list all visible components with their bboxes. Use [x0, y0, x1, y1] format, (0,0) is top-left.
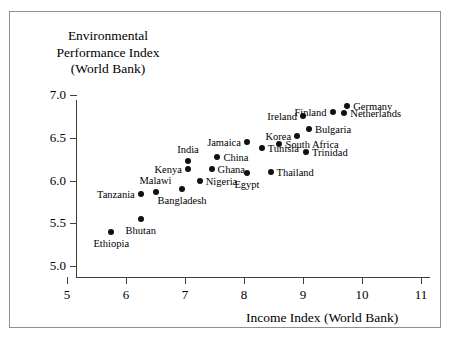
data-point-label: Germany [353, 101, 392, 112]
data-point-label: Bulgaria [315, 124, 351, 135]
y-axis-title-line-1: Environmental [28, 28, 188, 45]
data-point-label: Finland [294, 107, 326, 118]
data-point-label: Tanzania [97, 189, 135, 200]
data-point-label: Jamaica [207, 137, 241, 148]
data-point[interactable] [306, 126, 312, 132]
data-point[interactable] [209, 166, 215, 172]
y-tick-mark [70, 95, 77, 96]
data-point[interactable] [341, 110, 347, 116]
figure-frame: Environmental Performance Index (World B… [9, 11, 441, 328]
data-point[interactable] [138, 216, 144, 222]
y-tick-label: 5.5 [32, 216, 66, 229]
x-tick-mark [421, 277, 422, 284]
data-point-label: China [223, 152, 248, 163]
data-point[interactable] [214, 154, 220, 160]
data-point-label: Nigeria [206, 175, 238, 186]
y-axis-line [76, 100, 77, 278]
y-axis-title-line-3: (World Bank) [28, 61, 188, 78]
data-point[interactable] [259, 145, 265, 151]
data-point[interactable] [244, 139, 250, 145]
data-point[interactable] [153, 189, 159, 195]
y-tick-mark [70, 181, 77, 182]
data-point[interactable] [303, 149, 309, 155]
x-tick-mark [185, 277, 186, 284]
data-point-label: Ghana [218, 163, 245, 174]
x-tick-mark [67, 277, 68, 284]
y-tick-mark [70, 138, 77, 139]
data-point-label: Ireland [267, 110, 297, 121]
data-point-label: Malawi [139, 175, 171, 186]
x-axis-line [76, 277, 430, 278]
y-axis-title-line-2: Performance Index [28, 45, 188, 62]
data-point[interactable] [179, 186, 185, 192]
data-point[interactable] [108, 229, 114, 235]
scatter-plot-figure: Environmental Performance Index (World B… [0, 0, 452, 342]
x-tick-label: 11 [406, 288, 436, 302]
data-point[interactable] [330, 109, 336, 115]
data-point-label: Trinidad [312, 147, 348, 158]
data-point[interactable] [185, 166, 191, 172]
y-tick-label: 6.5 [32, 131, 66, 144]
x-tick-mark [303, 277, 304, 284]
data-point-label: Kenya [155, 164, 182, 175]
data-point-label: Bhutan [126, 225, 156, 236]
data-point-label: India [177, 144, 199, 155]
data-point[interactable] [268, 169, 274, 175]
x-tick-label: 6 [111, 288, 141, 302]
data-point[interactable] [197, 178, 203, 184]
data-point-label: Thailand [277, 166, 314, 177]
x-tick-label: 8 [229, 288, 259, 302]
data-point[interactable] [138, 191, 144, 197]
x-tick-mark [126, 277, 127, 284]
y-tick-label: 5.0 [32, 259, 66, 272]
data-point-label: Egypt [234, 179, 259, 190]
x-tick-mark [244, 277, 245, 284]
data-point[interactable] [244, 170, 250, 176]
x-tick-label: 5 [52, 288, 82, 302]
x-tick-label: 7 [170, 288, 200, 302]
x-tick-mark [362, 277, 363, 284]
data-point-label: Bangladesh [158, 195, 207, 206]
x-axis-title: Income Index (World Bank) [246, 310, 398, 325]
data-point-label: Ethiopia [93, 238, 129, 249]
y-tick-label: 7.0 [32, 88, 66, 101]
data-point-label: Korea [265, 131, 291, 142]
y-axis-title: Environmental Performance Index (World B… [28, 28, 188, 78]
y-tick-label: 6.0 [32, 174, 66, 187]
y-tick-mark [70, 266, 77, 267]
x-tick-label: 10 [347, 288, 377, 302]
data-point[interactable] [185, 158, 191, 164]
x-tick-label: 9 [288, 288, 318, 302]
y-tick-mark [70, 223, 77, 224]
